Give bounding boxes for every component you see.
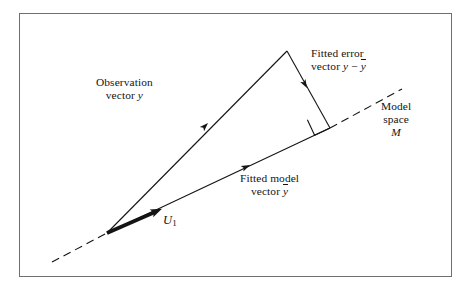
right-angle-marker xyxy=(307,113,330,136)
label-observation-vector: Observation vector y xyxy=(96,76,153,102)
label-fitted-error-symbol-ybar-base: y xyxy=(361,60,366,72)
vector-diagram-canvas xyxy=(0,0,468,291)
label-fitted-model-symbol-yhat-base: y xyxy=(283,185,288,197)
label-fitted-model-line2: vector y xyxy=(240,185,299,198)
label-fitted-error-symbol-ybar: y xyxy=(361,60,366,73)
label-fitted-error-vector: Fitted error vector y−y xyxy=(311,47,366,73)
label-basis-vector-u1: U1 xyxy=(163,213,177,228)
label-model-space-symbol-m: M xyxy=(381,126,411,139)
figure-root: Observation vector y Fitted error vector… xyxy=(0,0,468,291)
basis-vector-u1-line xyxy=(107,212,155,233)
label-model-space: Model space M xyxy=(381,100,411,138)
model-space-line-left-segment xyxy=(52,233,107,262)
label-fitted-error-line2-prefix: vector xyxy=(311,60,343,72)
label-fitted-model-vector: Fitted model vector y xyxy=(240,172,299,198)
label-fitted-error-operator: − xyxy=(348,60,361,72)
label-fitted-model-symbol-yhat: y xyxy=(283,185,288,198)
label-basis-vector-u1-symbol: U xyxy=(163,213,172,227)
label-model-space-line1: Model xyxy=(381,100,411,113)
label-fitted-model-line1: Fitted model xyxy=(240,172,299,185)
label-fitted-error-line1: Fitted error xyxy=(311,47,366,60)
label-observation-line2-prefix: vector xyxy=(106,89,138,101)
fitted-model-vector-arrowhead xyxy=(241,162,252,171)
label-fitted-error-line2: vector y−y xyxy=(311,60,366,73)
label-observation-line2: vector y xyxy=(96,89,153,102)
label-observation-symbol-y: y xyxy=(138,89,143,101)
label-fitted-model-line2-prefix: vector xyxy=(251,185,283,197)
overbar-accent xyxy=(361,59,366,60)
label-model-space-line2: space xyxy=(381,113,411,126)
overbar-accent xyxy=(283,184,288,185)
label-basis-vector-u1-subscript: 1 xyxy=(172,218,177,228)
label-observation-line1: Observation xyxy=(96,76,153,89)
